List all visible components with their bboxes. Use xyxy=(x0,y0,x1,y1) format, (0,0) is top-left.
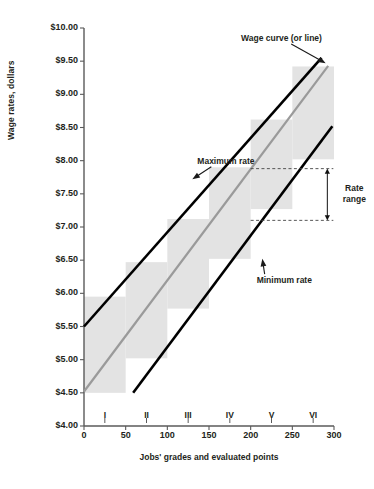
y-tick-label: $5.50 xyxy=(32,321,78,331)
x-tick-label: 200 xyxy=(231,430,271,440)
y-tick-label: $9.50 xyxy=(32,55,78,65)
x-tick-label: 50 xyxy=(106,430,146,440)
x-tick-label: 100 xyxy=(147,430,187,440)
y-tick-label: $8.00 xyxy=(32,155,78,165)
rate-range-box-II xyxy=(126,262,168,358)
series-line-minimum-rate xyxy=(133,126,332,393)
y-tick-label: $6.50 xyxy=(32,254,78,264)
rate-range-label-line2: range xyxy=(337,194,371,205)
annotation-maximum-rate: Maximum rate xyxy=(197,156,254,166)
grade-label-I: I xyxy=(84,410,126,420)
y-tick-label: $9.00 xyxy=(32,88,78,98)
grade-label-IV: IV xyxy=(209,410,251,420)
x-axis-title: Jobs' grades and evaluated points xyxy=(84,452,334,462)
y-tick-label: $7.00 xyxy=(32,221,78,231)
rate-range-label-line1: Rate xyxy=(337,183,371,194)
y-axis-title: Wage rates, dollars xyxy=(6,0,16,140)
rate-range-box-VI xyxy=(292,66,334,159)
x-tick-label: 250 xyxy=(272,430,312,440)
y-tick-label: $10.00 xyxy=(32,22,78,32)
grade-label-III: III xyxy=(167,410,209,420)
x-tick-label: 150 xyxy=(189,430,229,440)
grade-label-II: II xyxy=(126,410,168,420)
rate-range-box-V xyxy=(251,120,293,210)
x-tick-label: 300 xyxy=(314,430,354,440)
y-tick-label: $8.50 xyxy=(32,122,78,132)
x-tick-label: 0 xyxy=(64,430,104,440)
y-tick-label: $7.50 xyxy=(32,188,78,198)
annotation-wage-curve: Wage curve (or line) xyxy=(241,33,322,43)
rate-range-label: Rate range xyxy=(337,183,371,205)
annotation-minimum-rate: Minimum rate xyxy=(257,275,312,285)
rate-range-boxes xyxy=(84,66,334,392)
y-tick-label: $5.00 xyxy=(32,354,78,364)
arrow-wage-curve xyxy=(291,44,322,61)
y-tick-label: $6.00 xyxy=(32,287,78,297)
series-line-wage-curve-or-line xyxy=(84,66,328,392)
grade-label-VI: VI xyxy=(292,410,334,420)
y-tick-label: $4.00 xyxy=(32,420,78,430)
y-tick-label: $4.50 xyxy=(32,387,78,397)
grade-label-V: V xyxy=(251,410,293,420)
